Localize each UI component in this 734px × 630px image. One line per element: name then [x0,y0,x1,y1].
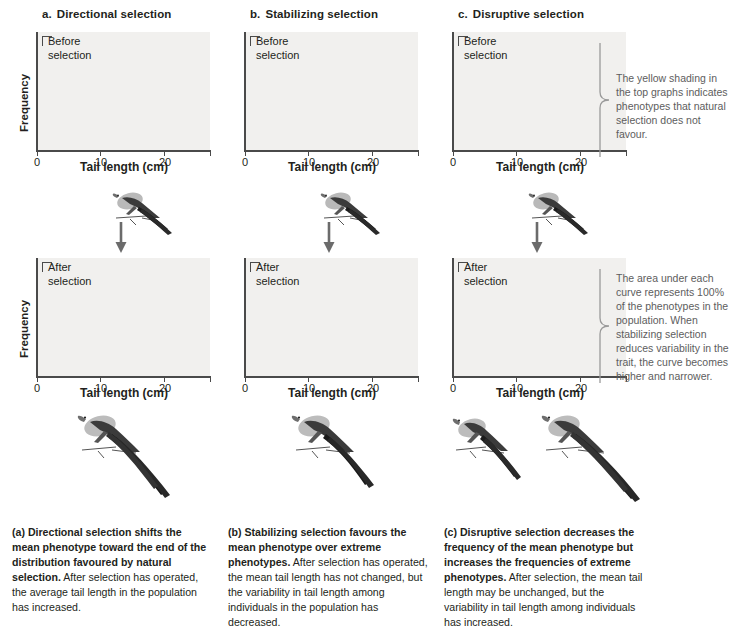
bird-illustration-c-short-tail-bottom [452,408,536,498]
caption-c: (c) Disruptive selection decreases the f… [444,525,649,630]
x-axis-label-c-before: Tail length (cm) [454,160,626,174]
panel-heading-a: a.Directional selection [42,8,171,20]
y-axis-label-a-after: Frequency [18,300,30,358]
annotation-brace-1 [598,42,612,158]
panel-letter-a: a. [42,8,52,20]
x-axis-label-b-before: Tail length (cm) [246,160,418,174]
caption-b: (b) Stabilizing selection favours the me… [228,525,428,630]
x-axis-label-a-before: Tail length (cm) [38,160,210,174]
y-axis-a-before [36,32,38,150]
x-axis-label-c-after: Tail length (cm) [454,386,626,400]
chart-a-before: 0 10 20 Before selection [38,32,210,157]
x-axis-a-before [36,150,211,152]
before-selection-note-a: Before selection [48,35,91,63]
annotation-yellow-shading: The yellow shading in the top graphs ind… [616,72,728,142]
x-axis-label-a-after: Tail length (cm) [38,386,210,400]
x-axis-a-after [36,376,211,378]
before-selection-note-b: Before selection [256,35,299,63]
panel-title-a: Directional selection [57,8,172,20]
arrow-down-icon-b [322,222,336,254]
annotation-area-under-curve: The area under each curve represents 100… [616,272,730,384]
x-tick-end [418,151,419,156]
bird-illustration-c-long-tail-bottom [540,404,652,504]
after-selection-note-c: After selection [464,261,507,289]
x-axis-b-before [244,150,419,152]
x-axis-label-b-after: Tail length (cm) [246,386,418,400]
chart-b-before: 0 10 20 Before selection [246,32,418,157]
before-selection-note-c: Before selection [464,35,507,63]
y-axis-c-after [452,258,454,376]
after-selection-note-a: After selection [48,261,91,289]
bird-illustration-a-long-tail [76,404,186,500]
chart-b-after: 0 10 20 After selection [246,258,418,383]
bird-illustration-b-medium-tail [290,404,400,500]
panel-title-b: Stabilizing selection [265,8,378,20]
panel-heading-b: b.Stabilizing selection [250,8,378,20]
x-axis-b-after [244,376,419,378]
panel-title-c: Disruptive selection [473,8,584,20]
annotation-brace-2 [598,268,612,384]
after-selection-note-b: After selection [256,261,299,289]
x-tick-end [210,151,211,156]
y-axis-c-before [452,32,454,150]
x-tick-end [626,151,627,156]
panel-letter-c: c. [458,8,468,20]
x-tick-end [210,377,211,382]
panel-letter-b: b. [250,8,260,20]
arrow-down-icon-a [114,222,128,254]
arrow-down-icon-c [530,222,544,254]
panel-heading-c: c.Disruptive selection [458,8,584,20]
chart-a-after: 0 10 20 After selection [38,258,210,383]
y-axis-a-after [36,258,38,376]
caption-a: (a) Directional selection shifts the mea… [12,525,212,615]
x-tick-end [418,377,419,382]
y-axis-b-before [244,32,246,150]
y-axis-b-after [244,258,246,376]
y-axis-label-a-before: Frequency [18,74,30,132]
